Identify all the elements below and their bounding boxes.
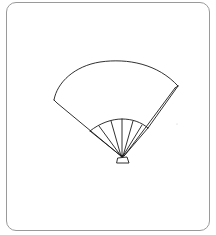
fan-leaf <box>54 61 178 156</box>
fan-ribs <box>90 119 148 156</box>
stray-mark <box>177 124 178 125</box>
fan-handle <box>117 155 129 163</box>
folding-fan-illustration <box>0 0 216 235</box>
